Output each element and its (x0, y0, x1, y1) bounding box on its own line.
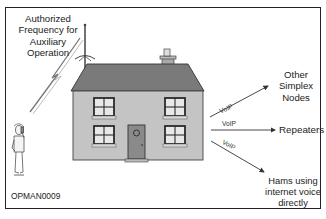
target-repeaters: Repeaters (279, 124, 324, 136)
target-line: internet voice (262, 186, 324, 197)
figure-id-label: OPMAN0009 (11, 192, 60, 202)
window-icon (92, 126, 116, 147)
source-line: Authorized (14, 13, 82, 24)
source-frequency-label: Authorized Frequency for Auxiliary Opera… (14, 13, 82, 58)
door-icon (125, 125, 148, 162)
house-icon (71, 49, 204, 162)
voip-link-arrows (210, 86, 275, 172)
window-icon (163, 98, 187, 119)
target-line: Hams using (262, 175, 324, 186)
source-line: Auxiliary (14, 36, 82, 47)
window-icon (163, 126, 187, 147)
person-icon (12, 124, 24, 175)
target-line: Simplex (273, 80, 319, 91)
window-icon (92, 98, 116, 119)
target-line: Other (273, 69, 319, 80)
target-line: Nodes (273, 92, 319, 103)
source-line: Frequency for (14, 24, 82, 35)
source-line: Operation (14, 47, 82, 58)
voip-label-repeaters: VoIP (222, 120, 236, 127)
target-hams-internet-voice: Hams using internet voice directly (262, 175, 324, 208)
target-line: directly (262, 197, 324, 208)
target-other-simplex-nodes: Other Simplex Nodes (273, 69, 319, 103)
